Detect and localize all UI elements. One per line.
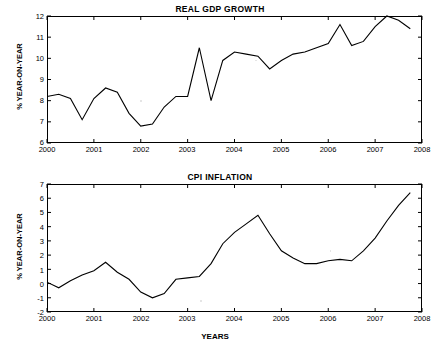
line-series-real-gdp-growth <box>47 16 410 126</box>
chart-panel-cpi-inflation: CPI INFLATION % YEAR-ON-YEAR YEARS 7 6 5… <box>0 172 434 353</box>
chart-panel-real-gdp-growth: REAL GDP GROWTH % YEAR-ON-YEAR 12 11 10 … <box>0 0 434 160</box>
line-series-cpi-inflation <box>47 193 410 298</box>
series-canvas-bottom <box>0 172 434 353</box>
series-canvas-top <box>0 0 434 160</box>
scan-speckle <box>255 60 257 61</box>
axis-ticks-top <box>47 16 422 143</box>
scan-speckle <box>200 300 202 302</box>
scan-speckle <box>140 100 142 102</box>
figure-canvas: REAL GDP GROWTH % YEAR-ON-YEAR 12 11 10 … <box>0 0 434 353</box>
scan-speckle <box>330 250 331 252</box>
